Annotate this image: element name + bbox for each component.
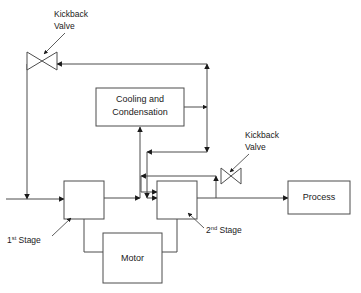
second-stage-label: 2nd Stage: [206, 225, 242, 235]
motor-box[interactable]: Motor: [103, 233, 162, 283]
process-label: Process: [303, 192, 336, 202]
motor-shaft-second-stage: [162, 219, 177, 252]
motor-shaft-first-stage: [84, 219, 103, 252]
process-box[interactable]: Process: [288, 181, 350, 214]
first-stage-box[interactable]: [64, 181, 104, 219]
first-stage-discharge-line: [104, 127, 140, 198]
cooling-condensation-box[interactable]: Cooling and Condensation: [96, 88, 184, 126]
first-stage-label-suffix: Stage: [16, 235, 41, 245]
kickback-valve-left-icon[interactable]: [27, 52, 57, 70]
cooling-condensation-label-line1: Cooling and: [116, 94, 164, 104]
process-flow-diagram: Cooling and Condensation Motor Process: [0, 0, 361, 293]
diagram-canvas: Cooling and Condensation Motor Process: [0, 0, 361, 293]
second-stage-box[interactable]: [157, 181, 197, 219]
kickback-valve-right-label-line1: Kickback: [245, 130, 280, 140]
kickback-valve-right-label-line2: Valve: [245, 142, 266, 152]
second-stage-discharge-line: [197, 176, 288, 198]
motor-label: Motor: [121, 253, 144, 263]
first-stage-callout: 1st Stage: [7, 218, 71, 245]
kickback-valve-right-icon[interactable]: [221, 168, 241, 184]
cooling-condensation-label-line2: Condensation: [112, 107, 168, 117]
kickback-valve-left-label-line1: Kickback: [54, 9, 89, 19]
kickback-valve-left-callout: Kickback Valve: [44, 9, 89, 54]
second-stage-label-suffix: Stage: [217, 225, 242, 235]
kickback-valve-left-label-line2: Valve: [54, 21, 75, 31]
kickback-valve-right-callout: Kickback Valve: [230, 130, 280, 172]
first-stage-label: 1st Stage: [7, 235, 41, 245]
